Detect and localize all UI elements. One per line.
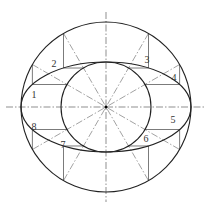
point-label-6: 6 [144,133,149,144]
point-label-3: 3 [145,54,150,65]
point-label-4: 4 [172,72,177,83]
point-label-7: 7 [61,139,66,150]
ellipse-construction-diagram: 12345678 [0,0,205,213]
point-label-8: 8 [32,121,37,132]
point-label-5: 5 [171,114,176,125]
point-label-1: 1 [32,89,37,100]
center-point [104,105,107,108]
point-label-2: 2 [52,58,57,69]
